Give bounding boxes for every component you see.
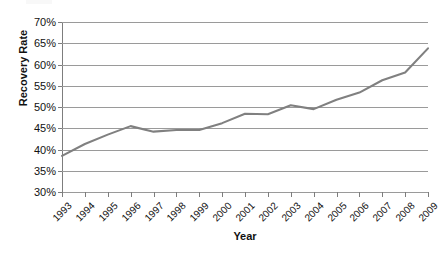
x-tick-label: 1997 bbox=[142, 200, 166, 224]
x-tick-mark bbox=[154, 192, 155, 197]
y-tick-label: 65% bbox=[34, 37, 56, 49]
x-tick-label: 1994 bbox=[73, 200, 97, 224]
x-tick-mark bbox=[85, 192, 86, 197]
x-tick-label: 2004 bbox=[302, 200, 326, 224]
x-tick-mark bbox=[268, 192, 269, 197]
x-tick-label: 2000 bbox=[210, 200, 234, 224]
recovery-rate-polyline bbox=[62, 48, 428, 156]
x-tick-mark bbox=[62, 192, 63, 197]
x-tick-label: 1999 bbox=[188, 200, 212, 224]
x-tick-mark bbox=[314, 192, 315, 197]
y-tick-label: 55% bbox=[34, 80, 56, 92]
y-tick-label: 35% bbox=[34, 165, 56, 177]
x-tick-label: 2002 bbox=[256, 200, 280, 224]
x-tick-mark bbox=[337, 192, 338, 197]
y-tick-label: 45% bbox=[34, 122, 56, 134]
x-tick-label: 2001 bbox=[233, 200, 257, 224]
y-tick-label: 40% bbox=[34, 144, 56, 156]
x-tick-label: 2003 bbox=[279, 200, 303, 224]
x-tick-mark bbox=[428, 192, 429, 197]
plot-area: 70%65%60%55%50%45%40%35%30% 199319941995… bbox=[62, 22, 428, 192]
x-tick-label: 2009 bbox=[416, 200, 440, 224]
x-tick-mark bbox=[108, 192, 109, 197]
x-tick-label: 2007 bbox=[371, 200, 395, 224]
x-tick-label: 2008 bbox=[393, 200, 417, 224]
x-tick-label: 1995 bbox=[96, 200, 120, 224]
y-axis-title: Recovery Rate bbox=[17, 8, 29, 128]
y-tick-label: 50% bbox=[34, 101, 56, 113]
series-line-recovery-rate bbox=[62, 22, 428, 192]
y-tick-label: 30% bbox=[34, 186, 56, 198]
x-tick-mark bbox=[245, 192, 246, 197]
x-tick-mark bbox=[359, 192, 360, 197]
y-tick-label: 70% bbox=[34, 16, 56, 28]
x-tick-mark bbox=[131, 192, 132, 197]
x-tick-mark bbox=[405, 192, 406, 197]
x-tick-mark bbox=[291, 192, 292, 197]
x-tick-label: 2005 bbox=[325, 200, 349, 224]
x-tick-label: 2006 bbox=[348, 200, 372, 224]
x-tick-mark bbox=[222, 192, 223, 197]
x-tick-label: 1998 bbox=[165, 200, 189, 224]
x-tick-label: 1993 bbox=[50, 200, 74, 224]
scan-artifact bbox=[26, 0, 52, 4]
y-tick-label: 60% bbox=[34, 59, 56, 71]
x-tick-mark bbox=[199, 192, 200, 197]
x-tick-mark bbox=[176, 192, 177, 197]
x-tick-mark bbox=[382, 192, 383, 197]
chart-figure: Recovery Rate 70%65%60%55%50%45%40%35%30… bbox=[0, 0, 445, 255]
x-axis-title: Year bbox=[62, 230, 428, 242]
x-tick-label: 1996 bbox=[119, 200, 143, 224]
